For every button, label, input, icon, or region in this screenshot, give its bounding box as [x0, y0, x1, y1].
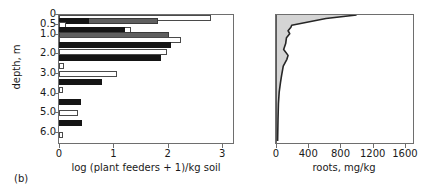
x-tick-label: 400: [299, 149, 318, 159]
left-x-axis: 0123: [58, 144, 234, 162]
roots-area-plot: [276, 15, 413, 143]
roots-profile-line: [278, 15, 357, 141]
y-axis-tick-labels: 00.51.02.03.04.05.06.0: [18, 14, 56, 144]
roots-fill-area: [276, 15, 357, 141]
bar-black: [59, 79, 102, 85]
right-x-axis-title: roots, mg/kg: [312, 162, 375, 173]
bar-white: [59, 110, 78, 116]
y-tick-label: 6.0: [22, 127, 56, 137]
right-x-axis: 040080012001600: [275, 144, 414, 162]
y-tick-label: 5.0: [22, 107, 56, 117]
x-tick-label: 0: [273, 149, 279, 159]
bar-black: [59, 120, 82, 126]
y-tick-label: 3.0: [22, 68, 56, 78]
bar-white: [59, 71, 117, 77]
plant-feeders-bars: [59, 15, 233, 143]
y-tick-label: 4.0: [22, 88, 56, 98]
x-tick-label: 1600: [392, 149, 417, 159]
x-tick-label: 1200: [360, 149, 385, 159]
bar-white: [59, 87, 63, 93]
x-tick-label: 0: [56, 149, 62, 159]
bar-black: [59, 55, 161, 61]
y-tick-label: 2.0: [22, 48, 56, 58]
x-tick-label: 3: [219, 149, 225, 159]
bar-black: [59, 42, 171, 48]
bar-white: [59, 132, 63, 138]
bar-black: [59, 99, 81, 105]
left-x-axis-title: log (plant feeders + 1)/kg soil: [71, 162, 220, 173]
figure-panel-b: depth, m 00.51.02.03.04.05.06.0 0123 log…: [0, 0, 422, 192]
x-tick-label: 800: [331, 149, 350, 159]
panel-label: (b): [14, 174, 28, 184]
x-tick-label: 1: [110, 149, 116, 159]
y-tick-label: 1.0: [22, 29, 56, 39]
bar-white: [59, 63, 64, 69]
x-tick-label: 2: [165, 149, 171, 159]
